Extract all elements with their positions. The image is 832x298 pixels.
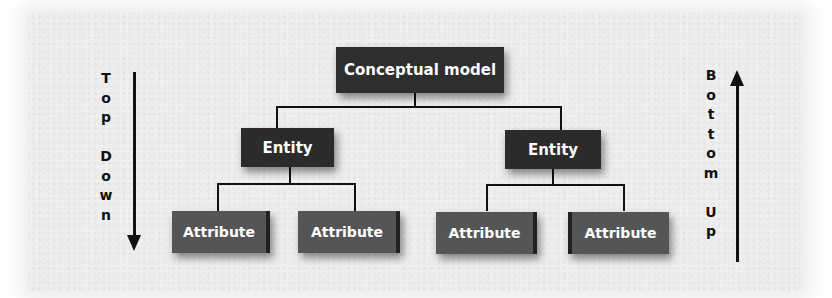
entity-node-right: Entity [505,130,601,169]
node-label: Attribute [183,224,255,240]
down-arrow-icon [127,235,141,251]
letter: p [701,222,721,242]
conceptual-model-node: Conceptual model [336,47,504,93]
left-entity-connector [276,106,278,128]
left-entity-down-connector [289,167,291,184]
top-down-label: T o p D o w n [96,69,116,225]
letter: U [701,203,721,223]
right-entity-down-connector [552,169,554,185]
root-connector-horizontal [276,106,562,108]
letter: o [701,86,721,106]
letter: D [96,147,116,167]
letter: w [96,186,116,206]
down-arrow-shaft [133,72,136,238]
attribute-node: Attribute [568,212,669,254]
letter [96,128,116,148]
letter [701,183,721,203]
letter: o [96,89,116,109]
letter: p [96,108,116,128]
left-attr2-connector [354,183,356,211]
letter: o [701,144,721,164]
node-label: Entity [528,141,578,159]
letter: m [701,164,721,184]
letter: T [96,69,116,89]
up-arrow-shaft [736,84,739,262]
letter: t [701,125,721,145]
attribute-node: Attribute [172,211,270,253]
attribute-node: Attribute [298,211,400,253]
node-label: Entity [262,139,312,157]
right-entity-connector [560,106,562,130]
letter: t [701,105,721,125]
left-attr1-connector [217,183,219,211]
left-attributes-horizontal [217,183,356,185]
node-label: Attribute [584,225,656,241]
right-attr1-connector [486,184,488,211]
node-label: Attribute [448,225,520,241]
bottom-up-label: B o t t o m U p [701,66,721,242]
attribute-node: Attribute [436,212,537,254]
letter: B [701,66,721,86]
right-attr2-connector [623,184,625,211]
right-attributes-horizontal [486,184,625,186]
letter: o [96,167,116,187]
entity-node-left: Entity [241,128,334,167]
letter: n [96,206,116,226]
node-label: Conceptual model [344,61,496,79]
node-label: Attribute [311,224,383,240]
